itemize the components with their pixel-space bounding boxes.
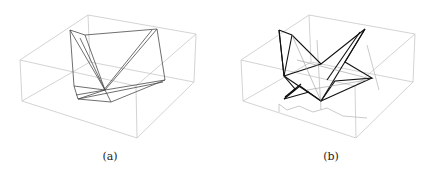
caption-a: (a) bbox=[80, 150, 140, 163]
panel-b: (b) bbox=[217, 0, 433, 150]
wireframe-figure-a bbox=[0, 0, 216, 150]
caption-b: (b) bbox=[301, 150, 361, 163]
wireframe-figure-b bbox=[217, 0, 433, 150]
panel-a: (a) bbox=[0, 0, 216, 150]
bounding-box-b bbox=[241, 15, 415, 138]
